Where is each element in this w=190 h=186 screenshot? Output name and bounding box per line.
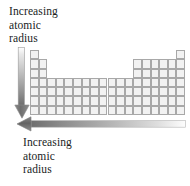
periodic-table-cell	[56, 96, 65, 105]
periodic-table-cell	[39, 59, 48, 68]
periodic-table-cell	[125, 78, 134, 87]
periodic-table-cell	[159, 96, 168, 105]
left-arrow-icon	[16, 116, 186, 134]
periodic-table-cell	[90, 106, 99, 115]
periodic-table-cell	[82, 96, 91, 105]
periodic-table-cell	[151, 96, 160, 105]
periodic-table-cell	[176, 78, 185, 87]
periodic-table-cell	[116, 87, 125, 96]
periodic-table-cell	[168, 96, 177, 105]
periodic-table-cell	[159, 106, 168, 115]
periodic-table-cell	[30, 87, 39, 96]
periodic-table-cell	[39, 87, 48, 96]
periodic-table-cell	[176, 50, 185, 59]
periodic-table-cell	[73, 106, 82, 115]
periodic-table-cell	[47, 106, 56, 115]
periodic-table-cell	[99, 106, 108, 115]
periodic-table-cell	[99, 78, 108, 87]
periodic-table-cell	[39, 78, 48, 87]
periodic-table-cell	[159, 59, 168, 68]
periodic-table-cell	[176, 106, 185, 115]
periodic-table-cell	[73, 96, 82, 105]
caption-top-line-3: radius	[9, 32, 58, 46]
periodic-table-cell	[30, 69, 39, 78]
periodic-table-cell	[176, 96, 185, 105]
periodic-table-cell	[168, 69, 177, 78]
caption-increasing-atomic-radius-bottom: Increasing atomic radius	[23, 136, 72, 177]
periodic-table-cell	[47, 78, 56, 87]
periodic-table-cell	[47, 87, 56, 96]
periodic-table-cell	[151, 69, 160, 78]
periodic-table-cell	[64, 106, 73, 115]
periodic-table-cell	[142, 96, 151, 105]
periodic-table-cell	[116, 96, 125, 105]
periodic-table-cell	[30, 106, 39, 115]
periodic-table-cell	[159, 69, 168, 78]
atomic-radius-trend-figure: Increasing atomic radius	[0, 0, 190, 186]
periodic-table-cell	[116, 78, 125, 87]
periodic-table-cell	[159, 87, 168, 96]
periodic-table-cell	[133, 96, 142, 105]
periodic-table-cell	[30, 78, 39, 87]
periodic-table-cell	[56, 78, 65, 87]
periodic-table-cell	[30, 96, 39, 105]
periodic-table-cell	[133, 78, 142, 87]
periodic-table-outline	[30, 50, 185, 115]
periodic-table-cell	[151, 59, 160, 68]
periodic-table-cell	[39, 96, 48, 105]
periodic-table-cell	[56, 87, 65, 96]
periodic-table-cell	[133, 69, 142, 78]
periodic-table-cell	[30, 59, 39, 68]
periodic-table-cell	[64, 78, 73, 87]
periodic-table-cell	[176, 59, 185, 68]
periodic-table-cell	[168, 78, 177, 87]
caption-top-line-1: Increasing	[9, 5, 58, 19]
periodic-table-cell	[82, 87, 91, 96]
periodic-table-cell	[108, 78, 117, 87]
periodic-table-cell	[47, 96, 56, 105]
periodic-table-cell	[108, 106, 117, 115]
periodic-table-cell	[39, 69, 48, 78]
periodic-table-cell	[168, 106, 177, 115]
periodic-table-cell	[142, 87, 151, 96]
periodic-table-cell	[99, 87, 108, 96]
periodic-table-cell	[39, 106, 48, 115]
periodic-table-cell	[142, 106, 151, 115]
periodic-table-cell	[125, 106, 134, 115]
periodic-table-cell	[142, 69, 151, 78]
periodic-table-cell	[90, 78, 99, 87]
periodic-table-cell	[82, 78, 91, 87]
periodic-table-cell	[90, 87, 99, 96]
periodic-table-cell	[73, 78, 82, 87]
periodic-table-cell	[125, 96, 134, 105]
periodic-table-cell	[151, 87, 160, 96]
caption-bottom-line-3: radius	[23, 163, 72, 177]
periodic-table-cell	[99, 96, 108, 105]
periodic-table-cell	[30, 50, 39, 59]
caption-bottom-line-1: Increasing	[23, 136, 72, 150]
periodic-table-cell	[73, 87, 82, 96]
caption-increasing-atomic-radius-top: Increasing atomic radius	[9, 5, 58, 46]
periodic-table-cell	[116, 106, 125, 115]
periodic-table-cell	[133, 59, 142, 68]
periodic-table-cell	[168, 59, 177, 68]
periodic-table-cell	[159, 78, 168, 87]
periodic-table-cell	[133, 87, 142, 96]
caption-bottom-line-2: atomic	[23, 150, 72, 164]
down-arrow-icon	[14, 47, 30, 119]
periodic-table-cell	[82, 106, 91, 115]
periodic-table-cell	[151, 106, 160, 115]
periodic-table-cell	[142, 59, 151, 68]
periodic-table-cell	[64, 96, 73, 105]
periodic-table-cell	[168, 87, 177, 96]
periodic-table-cell	[176, 87, 185, 96]
periodic-table-cell	[151, 78, 160, 87]
caption-top-line-2: atomic	[9, 19, 58, 33]
periodic-table-cell	[125, 87, 134, 96]
periodic-table-cell	[90, 96, 99, 105]
periodic-table-cell	[133, 106, 142, 115]
periodic-table-cell	[64, 87, 73, 96]
periodic-table-cell	[56, 106, 65, 115]
periodic-table-cell	[176, 69, 185, 78]
periodic-table-cell	[108, 87, 117, 96]
